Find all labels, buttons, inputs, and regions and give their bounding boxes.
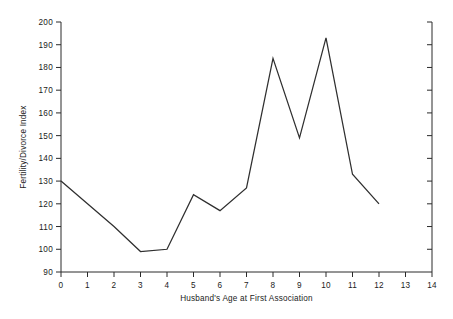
y-tick-label: 180 <box>38 63 53 72</box>
y-tick-label: 90 <box>43 268 53 277</box>
x-axis-title: Husband's Age at First Association <box>180 294 313 303</box>
x-tick-label: 13 <box>401 281 411 290</box>
x-tick-label: 14 <box>427 281 437 290</box>
x-tick-label: 3 <box>138 281 143 290</box>
data-series-line <box>61 38 379 252</box>
x-tick-label: 2 <box>112 281 117 290</box>
y-tick-label: 200 <box>38 18 53 27</box>
x-tick-label: 5 <box>191 281 196 290</box>
x-tick-label: 12 <box>374 281 384 290</box>
y-tick-label: 190 <box>38 41 53 50</box>
y-tick-label: 150 <box>38 132 53 141</box>
x-tick-label: 7 <box>244 281 249 290</box>
x-tick-label: 4 <box>165 281 170 290</box>
y-tick-label: 160 <box>38 109 53 118</box>
y-axis-title: Fertility/Divorce Index <box>19 105 28 188</box>
x-tick-label: 10 <box>321 281 331 290</box>
x-tick-label: 1 <box>85 281 90 290</box>
chart-figure: 9010011012013014015016017018019020001234… <box>0 0 453 319</box>
y-tick-label: 130 <box>38 177 53 186</box>
x-tick-label: 9 <box>297 281 302 290</box>
x-tick-label: 11 <box>348 281 357 290</box>
y-tick-label: 100 <box>38 245 53 254</box>
x-tick-label: 6 <box>218 281 223 290</box>
line-chart-canvas: 9010011012013014015016017018019020001234… <box>0 0 453 319</box>
x-tick-label: 8 <box>271 281 276 290</box>
y-tick-label: 140 <box>38 154 53 163</box>
x-tick-label: 0 <box>59 281 64 290</box>
y-tick-label: 120 <box>38 200 53 209</box>
y-tick-label: 110 <box>39 223 53 232</box>
y-tick-label: 170 <box>38 86 53 95</box>
